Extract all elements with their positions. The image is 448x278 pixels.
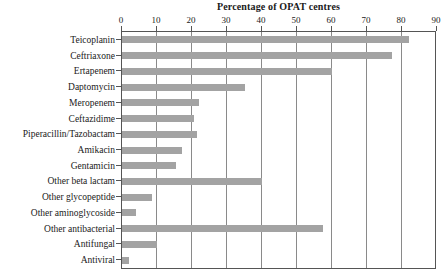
x-tick-label-80: 80 (397, 15, 406, 26)
bar-chart: Percentage of OPAT centres 0102030405060… (0, 0, 448, 278)
y-axis-tick (116, 259, 121, 260)
x-axis-tick-70 (366, 26, 367, 31)
bar-row (122, 147, 435, 154)
x-tick-label-30: 30 (222, 15, 231, 26)
y-axis-tick (116, 70, 121, 71)
x-axis-tick-0 (121, 26, 122, 31)
x-axis-tick-90 (436, 26, 437, 31)
category-label: Other glycopeptide (0, 192, 115, 203)
category-label: Piperacillin/Tazobactam (0, 129, 115, 140)
x-axis-tick-20 (191, 26, 192, 31)
x-tick-label-40: 40 (257, 15, 266, 26)
x-tick-label-20: 20 (187, 15, 196, 26)
category-label: Amikacin (0, 145, 115, 156)
x-tick-label-0: 0 (119, 15, 124, 26)
category-label: Other aminoglycoside (0, 207, 115, 218)
bar[interactable] (122, 52, 392, 59)
bar[interactable] (122, 131, 197, 138)
y-axis-tick (116, 86, 121, 87)
y-axis-tick (116, 39, 121, 40)
category-label: Ceftriaxone (0, 50, 115, 61)
x-tick-label-50: 50 (292, 15, 301, 26)
y-axis-tick (116, 196, 121, 197)
y-axis-tick (116, 55, 121, 56)
y-axis-tick (116, 102, 121, 103)
category-label: Ertapenem (0, 66, 115, 77)
bar[interactable] (122, 178, 262, 185)
bar-row (122, 178, 435, 185)
bar[interactable] (122, 84, 245, 91)
y-axis-tick (116, 228, 121, 229)
y-axis-tick (116, 165, 121, 166)
x-tick-label-70: 70 (362, 15, 371, 26)
category-label: Ceftazidime (0, 113, 115, 124)
bar[interactable] (122, 99, 199, 106)
x-axis-tick-60 (331, 26, 332, 31)
bar[interactable] (122, 147, 182, 154)
bar-row (122, 194, 435, 201)
category-label: Meropenem (0, 97, 115, 108)
bar-row (122, 68, 435, 75)
bar-row (122, 84, 435, 91)
bar-row (122, 52, 435, 59)
bar[interactable] (122, 257, 129, 264)
x-axis-tick-80 (401, 26, 402, 31)
bar-row (122, 209, 435, 216)
bar-row (122, 241, 435, 248)
category-label: Other antibacterial (0, 223, 115, 234)
y-axis-tick (116, 118, 121, 119)
x-axis-tick-40 (261, 26, 262, 31)
category-label: Gentamicin (0, 160, 115, 171)
x-tick-label-90: 90 (432, 15, 441, 26)
y-axis-tick (116, 133, 121, 134)
category-axis-labels: TeicoplaninCeftriaxoneErtapenemDaptomyci… (0, 31, 115, 269)
bar[interactable] (122, 194, 152, 201)
bar[interactable] (122, 209, 136, 216)
bar-row (122, 131, 435, 138)
bar[interactable] (122, 162, 176, 169)
bar-row (122, 99, 435, 106)
x-axis-tick-30 (226, 26, 227, 31)
bar-row (122, 162, 435, 169)
category-label: Antifungal (0, 239, 115, 250)
bar[interactable] (122, 115, 194, 122)
bars-group (122, 32, 435, 268)
category-label: Daptomycin (0, 82, 115, 93)
bar-row (122, 225, 435, 232)
bar[interactable] (122, 225, 323, 232)
y-axis-tick (116, 243, 121, 244)
category-label: Antiviral (0, 255, 115, 266)
y-axis-tick (116, 149, 121, 150)
category-label: Teicoplanin (0, 34, 115, 45)
bar[interactable] (122, 241, 157, 248)
x-axis-tick-50 (296, 26, 297, 31)
y-axis-tick (116, 212, 121, 213)
category-label: Other beta lactam (0, 176, 115, 187)
bar-row (122, 36, 435, 43)
x-axis-tick-10 (156, 26, 157, 31)
bar[interactable] (122, 36, 409, 43)
y-axis-tick (116, 180, 121, 181)
x-tick-label-60: 60 (327, 15, 336, 26)
bar-row (122, 257, 435, 264)
x-tick-label-10: 10 (152, 15, 161, 26)
bar[interactable] (122, 68, 332, 75)
chart-title: Percentage of OPAT centres (121, 1, 436, 12)
x-axis-tick-labels: 0102030405060708090 (121, 15, 436, 27)
bar-row (122, 115, 435, 122)
